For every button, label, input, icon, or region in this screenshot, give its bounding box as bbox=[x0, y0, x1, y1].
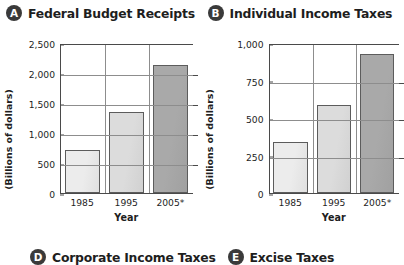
chart-b-title-row: B Individual Income Taxes bbox=[202, 0, 404, 22]
y-tick-label: 500 bbox=[246, 114, 269, 125]
bar-1995 bbox=[109, 112, 144, 193]
next-charts-row-partial: D Corporate Income Taxes E Excise Taxes bbox=[0, 249, 403, 265]
bar-2005 bbox=[360, 54, 395, 194]
y-tick-label: 2,000 bbox=[29, 69, 60, 80]
chart-a-bars bbox=[61, 45, 193, 193]
y-tick-label: 500 bbox=[37, 159, 60, 170]
chart-a-y-ticks: 05001,0001,5002,0002,500 bbox=[0, 44, 60, 194]
chart-a-x-tick-labels: 198519952005* bbox=[60, 197, 193, 211]
y-tick-label: 250 bbox=[246, 151, 269, 162]
x-tick-label: 1985 bbox=[279, 197, 302, 208]
y-tick-label: 1,000 bbox=[29, 129, 60, 140]
axis-tick-mark bbox=[193, 165, 198, 166]
chart-b-y-ticks: 02505007501,000 bbox=[202, 44, 269, 194]
axis-tick-mark bbox=[193, 105, 198, 106]
chart-b-x-tick-labels: 198519952005* bbox=[269, 197, 400, 211]
chart-a-badge: A bbox=[6, 5, 22, 21]
y-tick-label: 0 bbox=[49, 189, 60, 200]
chart-b: (Billions of dollars) 02505007501,000 19… bbox=[202, 22, 404, 227]
gridline bbox=[61, 165, 193, 166]
gridline bbox=[61, 75, 193, 76]
chart-panel-d-partial: D Corporate Income Taxes bbox=[0, 249, 202, 265]
chart-a: (Billions of dollars) 05001,0001,5002,00… bbox=[0, 22, 202, 227]
gridline bbox=[61, 135, 193, 136]
y-tick-label: 750 bbox=[246, 76, 269, 87]
chart-b-title: Individual Income Taxes bbox=[230, 6, 393, 21]
x-tick-label: 1985 bbox=[70, 197, 93, 208]
gridline bbox=[270, 120, 400, 121]
x-tick-label: 2005* bbox=[156, 197, 184, 208]
bar-2005 bbox=[153, 65, 188, 193]
gridline bbox=[61, 105, 193, 106]
axis-tick-mark bbox=[193, 135, 198, 136]
chart-a-x-axis-title: Year bbox=[60, 212, 193, 223]
chart-d-title: Corporate Income Taxes bbox=[52, 250, 216, 265]
y-tick-mark bbox=[60, 194, 64, 195]
axis-tick-mark bbox=[399, 83, 404, 84]
bar-1985 bbox=[273, 142, 308, 193]
chart-a-plot-area bbox=[60, 44, 193, 194]
chart-panels-row: A Federal Budget Receipts (Billions of d… bbox=[0, 0, 403, 227]
chart-a-title-row: A Federal Budget Receipts bbox=[0, 0, 202, 22]
axis-tick-mark bbox=[399, 120, 404, 121]
category-separator bbox=[356, 45, 357, 193]
x-tick-label: 1995 bbox=[115, 197, 138, 208]
x-tick-label: 2005* bbox=[363, 197, 391, 208]
chart-e-title: Excise Taxes bbox=[250, 250, 335, 265]
chart-a-title: Federal Budget Receipts bbox=[28, 6, 195, 21]
y-tick-label: 0 bbox=[258, 189, 269, 200]
chart-panel-e-partial: E Excise Taxes bbox=[202, 249, 404, 265]
category-separator bbox=[149, 45, 150, 193]
y-tick-label: 2,500 bbox=[29, 39, 60, 50]
axis-tick-mark bbox=[193, 75, 198, 76]
category-separator bbox=[105, 45, 106, 193]
chart-b-x-axis-title: Year bbox=[269, 212, 400, 223]
chart-b-badge: B bbox=[208, 5, 224, 21]
chart-e-badge: E bbox=[228, 249, 244, 265]
gridline bbox=[270, 83, 400, 84]
chart-b-bars bbox=[270, 45, 400, 193]
axis-tick-mark bbox=[399, 158, 404, 159]
y-tick-label: 1,500 bbox=[29, 99, 60, 110]
category-separator bbox=[313, 45, 314, 193]
chart-b-plot-area bbox=[269, 44, 400, 194]
chart-panel-b: B Individual Income Taxes (Billions of d… bbox=[202, 0, 404, 227]
chart-panel-a: A Federal Budget Receipts (Billions of d… bbox=[0, 0, 202, 227]
gridline bbox=[270, 158, 400, 159]
x-tick-label: 1995 bbox=[322, 197, 345, 208]
y-tick-mark bbox=[269, 194, 273, 195]
bar-1995 bbox=[317, 105, 352, 194]
y-tick-label: 1,000 bbox=[237, 39, 268, 50]
chart-d-badge: D bbox=[30, 249, 46, 265]
bar-1985 bbox=[65, 150, 100, 194]
